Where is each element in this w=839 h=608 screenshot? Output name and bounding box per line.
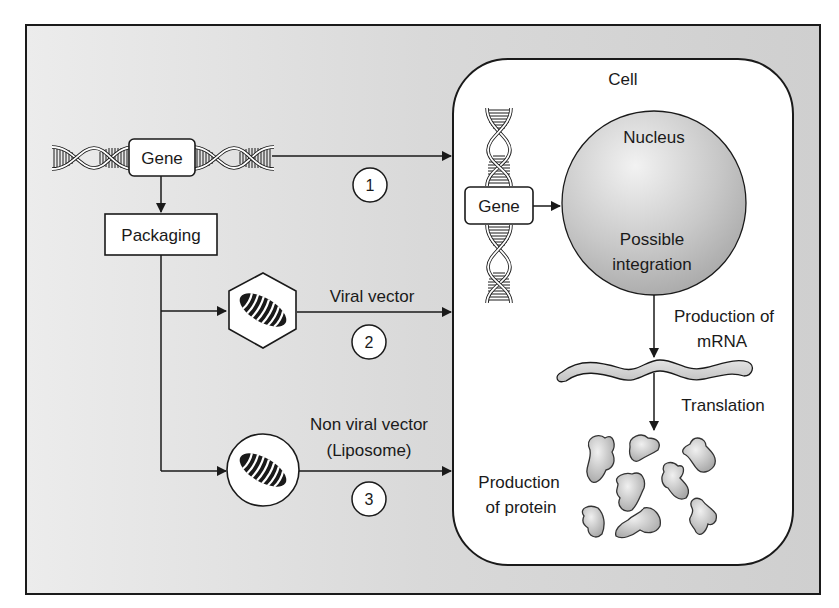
cell-gene-label: Gene xyxy=(478,197,520,216)
packaging-label: Packaging xyxy=(121,226,200,245)
cell-gene-box: Gene xyxy=(465,187,533,224)
non-viral-vector-label: Non viral vector xyxy=(310,415,428,434)
gene-therapy-diagram: Cell Gene Packaging 1 Viral vector 2 xyxy=(0,0,839,608)
cell-title: Cell xyxy=(608,70,637,89)
packaging-box: Packaging xyxy=(105,214,217,255)
mrna-label: mRNA xyxy=(697,332,748,351)
nucleus-possible-label: Possible xyxy=(620,230,684,249)
route-3-number: 3 xyxy=(365,491,374,508)
translation-label: Translation xyxy=(681,396,764,415)
mrna-production-label: Production of xyxy=(674,307,774,326)
liposome-vector-icon xyxy=(227,434,299,506)
nucleus: Nucleus Possible integration xyxy=(562,111,746,295)
protein-production-label: Production xyxy=(478,473,559,492)
liposome-label: (Liposome) xyxy=(326,441,411,460)
source-gene-label: Gene xyxy=(141,149,183,168)
viral-vector-label: Viral vector xyxy=(330,287,415,306)
nucleus-integration-label: integration xyxy=(612,255,691,274)
source-gene-box: Gene xyxy=(129,139,195,176)
protein-label: of protein xyxy=(486,498,557,517)
nucleus-title: Nucleus xyxy=(623,128,684,147)
route-2-number: 2 xyxy=(365,334,374,351)
route-1-number: 1 xyxy=(366,177,375,194)
